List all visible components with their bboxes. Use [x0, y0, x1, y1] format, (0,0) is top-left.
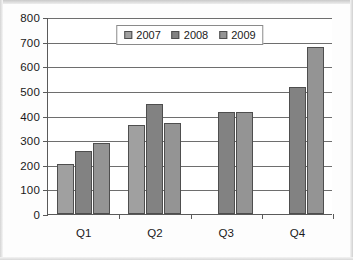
y-tick-label-200: 200	[20, 160, 40, 172]
y-tick-label-0: 0	[33, 209, 40, 221]
bar-q4-2009	[307, 47, 324, 214]
legend-swatch-icon-2007	[124, 31, 132, 39]
bar-group-q3	[191, 18, 262, 214]
y-tick-label-600: 600	[20, 61, 40, 73]
bar-q1-2007	[57, 164, 74, 214]
bar-group-q2	[119, 18, 190, 214]
y-tick-label-300: 300	[20, 135, 40, 147]
x-tick-mark-q3	[262, 214, 263, 219]
bar-group-q4	[262, 18, 333, 214]
x-tick-label-q2: Q2	[147, 227, 162, 239]
x-tick-mark-q4	[333, 214, 334, 219]
bar-q2-2009	[164, 123, 181, 214]
legend-swatch-icon-2008	[172, 31, 180, 39]
y-tick-label-500: 500	[20, 86, 40, 98]
bar-q3-2009	[236, 112, 253, 214]
y-tick-label-800: 800	[20, 12, 40, 24]
bar-q1-2009	[93, 143, 110, 214]
plot-area: 0100200300400500600700800 Q1Q2Q3Q4 20072…	[47, 18, 332, 215]
bar-q4-2008	[289, 87, 306, 214]
chart-legend: 200720082009	[116, 25, 263, 45]
legend-item-2007[interactable]: 2007	[124, 29, 160, 41]
bar-q1-2008	[75, 151, 92, 214]
legend-swatch-icon-2009	[219, 31, 227, 39]
legend-item-2008[interactable]: 2008	[172, 29, 208, 41]
bar-q2-2008	[146, 104, 163, 214]
x-tick-label-q4: Q4	[290, 227, 305, 239]
x-tick-label-q1: Q1	[76, 227, 91, 239]
legend-label-2008: 2008	[184, 29, 208, 41]
page-edge-left	[0, 0, 3, 260]
y-tick-label-100: 100	[20, 184, 40, 196]
x-tick-mark-q1	[119, 214, 120, 219]
y-tick-label-700: 700	[20, 37, 40, 49]
y-tick-mark-0	[43, 215, 48, 216]
bar-q2-2007	[128, 125, 145, 214]
chart-page: 0100200300400500600700800 Q1Q2Q3Q4 20072…	[0, 0, 353, 260]
bar-series-container	[48, 18, 332, 214]
page-edge-top	[0, 0, 353, 4]
x-tick-mark-q2	[191, 214, 192, 219]
legend-label-2007: 2007	[136, 29, 160, 41]
y-tick-label-400: 400	[20, 111, 40, 123]
legend-label-2009: 2009	[231, 29, 255, 41]
bar-group-q1	[48, 18, 119, 214]
bar-q3-2008	[218, 112, 235, 214]
legend-item-2009[interactable]: 2009	[219, 29, 255, 41]
x-tick-label-q3: Q3	[218, 227, 233, 239]
